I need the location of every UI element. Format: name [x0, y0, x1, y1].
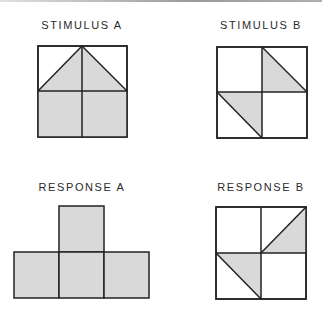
response-a-figure [14, 206, 149, 298]
response-b-figure [216, 207, 306, 299]
figure-canvas [0, 0, 322, 310]
stimulus-b-figure [217, 47, 307, 138]
stimulus-a-figure [38, 46, 127, 137]
